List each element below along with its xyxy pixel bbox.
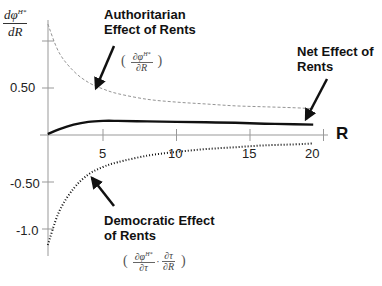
paren-open: ( [118,53,129,69]
chart-canvas [0,0,382,286]
net-arrow [306,79,327,119]
democratic-arrow [92,178,114,206]
dem-dot: · [157,256,160,267]
dem-den-1: ∂τ [137,263,150,273]
net-effect-of-rents-line [48,121,313,134]
dem-fraction-1: ∂φH* ∂τ [133,249,155,273]
dem-num-1: ∂φ [135,251,145,262]
x-tick-label-20: 20 [305,146,319,161]
paren-close: ) [178,253,189,269]
auth-num: ∂φ [133,51,143,62]
dem-sup-1: H* [145,251,152,257]
paren-close: ) [155,53,166,69]
x-tick-label-10: 10 [168,146,182,161]
democratic-label-line1: Democratic Effect [104,213,215,228]
authoritarian-label-line1: Authoritarian [104,7,196,22]
dem-den-2: ∂R [161,262,176,272]
ylabel-superscript: H* [18,8,27,16]
y-tick-label-neg-1.0: -1.0 [16,223,38,238]
net-label-line1: Net Effect of [297,44,374,59]
authoritarian-annotation: Authoritarian Effect of Rents [104,7,196,37]
authoritarian-formula: ( ∂φH* ∂R ) [118,49,165,73]
auth-den: ∂R [134,63,149,73]
ylabel-numerator: dφ [4,7,18,22]
y-tick-label-neg-0.50: -0.50 [10,176,40,191]
net-annotation: Net Effect of Rents [297,44,374,74]
dem-fraction-2: ∂τ ∂R [161,251,176,272]
authoritarian-label-line2: Effect of Rents [104,22,196,37]
democratic-label-line2: of Rents [104,228,215,243]
net-label-line2: Rents [297,59,374,74]
ylabel-denominator: dR [6,24,24,40]
x-tick-label-5: 5 [99,146,106,161]
x-tick-label-15: 15 [242,146,256,161]
dem-num-2: ∂τ [162,251,175,262]
paren-open: ( [120,253,131,269]
y-tick-label-0.50: 0.50 [10,80,35,95]
y-axis-label: dφH* dR [3,4,27,40]
x-axis-title: R [336,124,348,144]
auth-fraction: ∂φH* ∂R [131,49,153,73]
authoritarian-arrow [96,46,114,88]
democratic-annotation: Democratic Effect of Rents [104,213,215,243]
democratic-formula: ( ∂φH* ∂τ · ∂τ ∂R ) [120,249,189,273]
auth-sup: H* [143,51,150,57]
